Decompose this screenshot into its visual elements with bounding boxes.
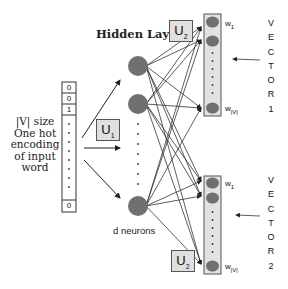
u2-bottom-main: U	[176, 253, 185, 268]
output1-last-label: w|V|	[225, 104, 238, 115]
vector-letter: C	[265, 202, 277, 216]
vector-2-vertical-label: V E C T O R 2	[265, 173, 277, 273]
output2-last-label: w|V|	[225, 262, 238, 273]
vector-letter: V	[265, 173, 277, 187]
output-vector-2	[204, 176, 260, 274]
u2-top-main: U	[174, 23, 183, 38]
u1-weight-label: U1	[96, 119, 120, 141]
input-cell-last: 0	[62, 201, 76, 210]
vector-letter: C	[265, 45, 277, 59]
input-desc-line: encoding	[4, 139, 66, 151]
input-cell-0: 0	[62, 83, 76, 92]
vector-1-vertical-label: V E C T O R 1	[265, 16, 277, 116]
u2-top-sub: 2	[184, 33, 188, 40]
word2vec-diagram: |V| size One hot encoding of input word …	[0, 0, 288, 289]
vector-letter: O	[265, 73, 277, 87]
u1-sub: 1	[111, 132, 115, 139]
vector-letter: 1	[265, 102, 277, 116]
w-sub: 1	[231, 24, 234, 30]
hidden-layer-footer: d neurons	[113, 225, 155, 236]
vector-letter: R	[265, 87, 277, 101]
vector-letter: 2	[265, 259, 277, 273]
input-cell-2: 1	[62, 105, 76, 114]
u2-bottom-sub: 2	[186, 263, 190, 270]
output1-first-label: w1	[225, 19, 234, 30]
vector-letter: R	[265, 244, 277, 258]
input-description: |V| size One hot encoding of input word	[4, 116, 66, 174]
vector-letter: O	[265, 230, 277, 244]
vector-letter: T	[265, 216, 277, 230]
vector-letter: E	[265, 187, 277, 201]
u2-bottom-weight-label: U2	[171, 250, 195, 272]
vector-letter: V	[265, 16, 277, 30]
output2-first-label: w1	[225, 179, 234, 190]
input-desc-line: |V| size	[4, 116, 66, 128]
input-cell-1: 0	[62, 94, 76, 103]
w-sub: |V|	[231, 267, 238, 273]
u2-top-weight-label: U2	[169, 20, 193, 42]
u1-main: U	[101, 122, 110, 137]
vector-letter: T	[265, 59, 277, 73]
hidden-layer-nodes	[128, 56, 148, 216]
input-desc-line: word	[4, 162, 66, 174]
w-sub: 1	[231, 184, 234, 190]
vector-letter: E	[265, 30, 277, 44]
w-sub: |V|	[231, 109, 238, 115]
